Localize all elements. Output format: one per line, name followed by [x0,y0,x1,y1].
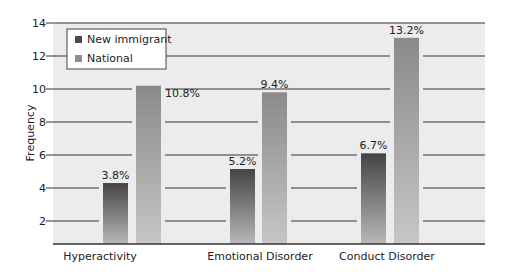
y-tick-label: 10 [32,83,46,96]
category-labels: HyperactivityEmotional DisorderConduct D… [63,250,435,263]
legend-label-national: National [87,52,133,65]
category-label: Emotional Disorder [207,250,313,263]
y-tick-label: 14 [32,17,46,30]
value-label: 5.2% [229,155,257,168]
value-label: 6.7% [360,139,388,152]
y-tick-label: 6 [39,149,46,162]
bar-new-immigrant-2 [361,153,386,244]
legend-label-new-immigrant: New immigrant [87,33,172,46]
bar-new-immigrant-1 [230,169,255,244]
bar-national-1 [262,92,287,244]
category-label: Conduct Disorder [339,250,435,263]
value-label: 3.8% [102,169,130,182]
bar-national-0 [136,86,161,244]
value-label: 13.2% [389,24,424,37]
category-label: Hyperactivity [63,250,137,263]
legend: New immigrant National [67,29,172,69]
bar-national-2 [394,38,419,244]
value-label: 10.8% [165,87,200,100]
legend-swatch-new-immigrant [75,36,82,43]
y-tick-label: 2 [39,215,46,228]
y-axis-label: Frequency [24,104,37,161]
bar-chart: 2468101214 3.8%10.8%5.2%9.4%6.7%13.2% Hy… [0,0,511,275]
value-label: 9.4% [261,78,289,91]
y-tick-label: 8 [39,116,46,129]
legend-swatch-national [75,55,82,62]
y-tick-label: 4 [39,182,46,195]
bar-new-immigrant-0 [103,183,128,244]
y-tick-label: 12 [32,50,46,63]
